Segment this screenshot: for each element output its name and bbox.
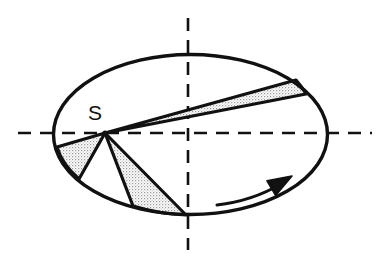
point-s-label: S <box>88 101 102 124</box>
figure-container: S <box>0 0 385 263</box>
point-s-marker <box>102 130 107 135</box>
wedge-upper-right-sliver <box>105 80 306 133</box>
wedge-left <box>57 133 105 179</box>
rotation-direction-arrow <box>217 176 292 205</box>
disc-sector-diagram: S <box>0 0 385 263</box>
rotation-arrow-head <box>267 176 292 195</box>
